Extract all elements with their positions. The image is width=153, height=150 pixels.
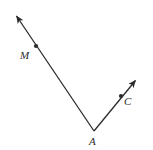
point-dot-c bbox=[119, 94, 123, 98]
angle-diagram-svg bbox=[0, 0, 153, 150]
point-label-a: A bbox=[89, 136, 96, 147]
geometry-figure: M A C bbox=[0, 0, 153, 150]
point-dot-m bbox=[34, 44, 38, 48]
point-label-m: M bbox=[20, 50, 29, 61]
ray-a-to-m bbox=[17, 16, 95, 131]
point-label-c: C bbox=[124, 96, 131, 107]
